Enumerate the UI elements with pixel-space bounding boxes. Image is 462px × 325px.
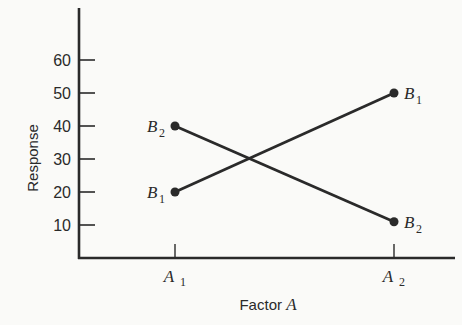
- series-line-B2: [175, 126, 394, 222]
- series-label-right: B: [404, 213, 415, 232]
- y-axis-title: Response: [24, 124, 41, 192]
- x-tick-label-subscript: 1: [180, 275, 186, 289]
- data-point: [390, 217, 399, 226]
- y-tick-label: 60: [53, 52, 71, 69]
- data-point: [390, 89, 399, 98]
- series-lines: B1B1B2B2: [147, 84, 422, 236]
- y-tick-label: 20: [53, 184, 71, 201]
- y-tick-label: 10: [53, 217, 71, 234]
- data-point: [171, 122, 180, 131]
- series-label-right-subscript: 1: [416, 93, 422, 107]
- y-tick-label: 50: [53, 85, 71, 102]
- series-label-left: B: [147, 183, 158, 202]
- series-line-B1: [175, 93, 394, 192]
- series-label-left-subscript: 2: [159, 126, 165, 140]
- y-tick-label: 40: [53, 118, 71, 135]
- x-axis-title-variable: A: [285, 295, 297, 314]
- y-tick-label: 30: [53, 151, 71, 168]
- data-point: [171, 188, 180, 197]
- x-tick-label: A: [382, 267, 394, 286]
- x-axis-title: Factor A: [239, 295, 297, 314]
- x-tick-label-subscript: 2: [399, 275, 405, 289]
- x-axis-ticks: A1A2: [163, 244, 405, 289]
- x-tick-label: A: [163, 267, 175, 286]
- y-axis-ticks: 102030405060: [53, 52, 95, 234]
- series-label-left-subscript: 1: [159, 192, 165, 206]
- series-label-right-subscript: 2: [416, 222, 422, 236]
- interaction-line-chart: 102030405060 A1A2 B1B1B2B2 Response Fact…: [0, 0, 462, 325]
- series-label-right: B: [404, 84, 415, 103]
- series-label-left: B: [147, 117, 158, 136]
